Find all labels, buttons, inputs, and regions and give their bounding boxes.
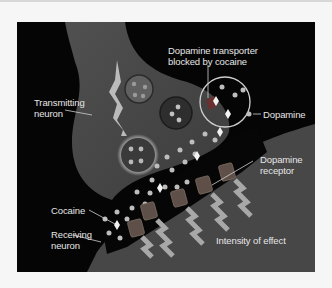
label-transmitting-line2: neuron [34,108,85,119]
label-dopamine-receptor: Dopamine receptor [260,154,303,176]
label-intensity-of-effect: Intensity of effect [216,235,286,246]
synapse-diagram: Dopamine transporter blocked by cocaine … [17,22,315,272]
vesicle-1 [125,75,153,103]
label-dopamine: Dopamine [263,109,306,120]
vesicle-2 [160,97,192,129]
label-receiving-line1: Receiving [51,229,92,240]
label-receptor-line2: receptor [260,165,303,176]
label-cocaine: Cocaine [51,205,85,216]
label-receiving-neuron: Receiving neuron [51,229,92,251]
top-border [0,0,332,2]
label-transporter-line2: blocked by cocaine [168,56,258,67]
label-receptor-line1: Dopamine [260,154,303,165]
vesicle-fusing [117,134,159,176]
label-transporter-line1: Dopamine transporter [168,45,258,56]
label-transmitting-line1: Transmitting [34,97,85,108]
label-transporter: Dopamine transporter blocked by cocaine [168,45,258,67]
label-transmitting-neuron: Transmitting neuron [34,97,85,119]
label-receiving-line2: neuron [51,240,92,251]
